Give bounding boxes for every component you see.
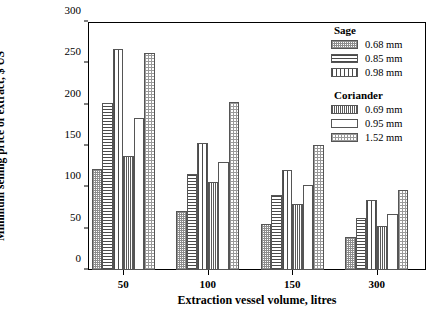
- bar: [229, 102, 240, 270]
- y-tick-label: 0: [76, 252, 89, 264]
- x-tick-label: 100: [200, 278, 217, 290]
- bar: [366, 200, 377, 270]
- legend-item: 1.52 mm: [331, 132, 423, 143]
- legend-swatch: [331, 54, 358, 63]
- y-tick-label: 100: [65, 169, 89, 181]
- bar: [208, 182, 219, 270]
- legend-label: 1.52 mm: [365, 132, 402, 143]
- legend-heading-coriander: Coriander: [334, 89, 423, 101]
- y-tick-mark: [84, 145, 88, 146]
- bar: [187, 174, 198, 270]
- y-tick-mark: [84, 62, 88, 63]
- bar: [144, 53, 155, 270]
- legend-label: 0.68 mm: [365, 39, 402, 50]
- y-tick-mark: [84, 269, 88, 270]
- y-tick-label: 50: [70, 211, 88, 223]
- x-tick-mark: [292, 270, 293, 275]
- y-tick-label: 150: [65, 128, 89, 140]
- y-tick-mark: [84, 186, 88, 187]
- y-tick-label: 200: [65, 87, 89, 99]
- bar: [356, 218, 367, 270]
- bar: [134, 118, 145, 270]
- bar: [398, 190, 409, 270]
- bar: [345, 237, 356, 270]
- bar: [271, 195, 282, 270]
- y-tick-label: 250: [65, 45, 89, 57]
- bar: [387, 214, 398, 270]
- x-tick-mark: [377, 270, 378, 275]
- legend-item: 0.95 mm: [331, 118, 423, 129]
- y-tick-label: 300: [65, 4, 89, 16]
- y-tick-mark: [84, 21, 88, 22]
- y-axis-title: Minimum selling price of extract, $ US: [0, 22, 12, 270]
- bar: [197, 143, 208, 270]
- x-tick-label: 300: [369, 278, 386, 290]
- bar: [292, 204, 303, 270]
- bar: [303, 185, 314, 270]
- legend-swatch: [331, 40, 358, 49]
- bar: [377, 226, 388, 270]
- bar: [113, 49, 124, 270]
- x-tick-mark: [208, 270, 209, 275]
- bar: [261, 224, 272, 270]
- bar: [92, 169, 103, 270]
- x-tick-label: 150: [284, 278, 301, 290]
- legend-item: 0.85 mm: [331, 53, 423, 64]
- bar: [176, 211, 187, 270]
- bar: [282, 170, 293, 270]
- x-tick-label: 50: [118, 278, 129, 290]
- bar: [102, 103, 113, 270]
- bar: [123, 156, 134, 270]
- legend-heading-sage: Sage: [334, 24, 423, 36]
- x-tick-mark: [123, 270, 124, 275]
- legend-swatch: [331, 119, 358, 128]
- bar: [313, 145, 324, 270]
- legend-label: 0.98 mm: [365, 67, 402, 78]
- y-tick-mark: [84, 103, 88, 104]
- bar: [218, 162, 229, 270]
- legend-label: 0.85 mm: [365, 53, 402, 64]
- legend-item: 0.69 mm: [331, 104, 423, 115]
- legend-label: 0.69 mm: [365, 104, 402, 115]
- bar-chart: Minimum selling price of extract, $ US 0…: [0, 0, 447, 319]
- legend-swatch: [331, 105, 358, 114]
- x-axis-title: Extraction vessel volume, litres: [88, 293, 426, 308]
- legend-label: 0.95 mm: [365, 118, 402, 129]
- legend-swatch: [331, 133, 358, 142]
- legend-swatch: [331, 68, 358, 77]
- legend-item: 0.98 mm: [331, 67, 423, 78]
- y-tick-mark: [84, 227, 88, 228]
- chart-legend: Sage0.68 mm0.85 mm0.98 mmCoriander0.69 m…: [331, 24, 423, 146]
- legend-item: 0.68 mm: [331, 39, 423, 50]
